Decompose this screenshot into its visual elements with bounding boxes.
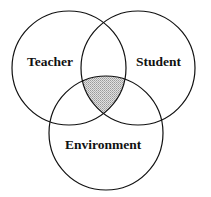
venn-diagram: Teacher Student Environment [0, 0, 211, 197]
student-label: Student [136, 54, 181, 70]
environment-label: Environment [65, 137, 141, 153]
venn-graphic [0, 0, 211, 197]
teacher-label: Teacher [27, 54, 73, 70]
